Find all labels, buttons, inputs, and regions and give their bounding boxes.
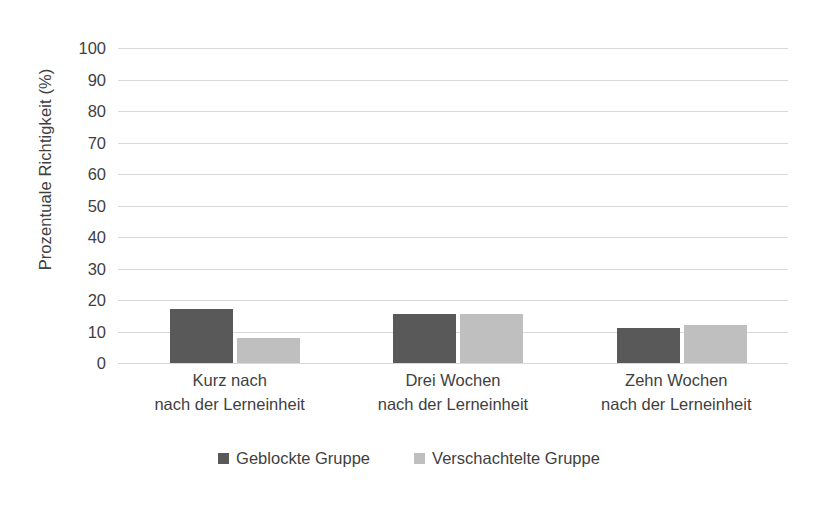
x-axis-category-label-line: Zehn Wochen bbox=[565, 369, 788, 393]
bar bbox=[393, 314, 456, 363]
bar-group bbox=[341, 48, 564, 363]
bar bbox=[237, 338, 300, 363]
legend-swatch-icon bbox=[218, 453, 229, 464]
x-axis-category-label-line: nach der Lerneinheit bbox=[118, 393, 341, 417]
legend-item-label: Geblockte Gruppe bbox=[236, 449, 370, 468]
plot-area bbox=[118, 48, 788, 363]
bar-chart: Prozentuale Richtigkeit (%) 010203040506… bbox=[0, 0, 818, 507]
axis-baseline bbox=[118, 363, 788, 364]
x-axis-category-label: Zehn Wochennach der Lerneinheit bbox=[565, 369, 788, 417]
chart-legend: Geblockte GruppeVerschachtelte Gruppe bbox=[0, 449, 818, 468]
legend-item[interactable]: Geblockte Gruppe bbox=[218, 449, 370, 468]
bar-groups bbox=[118, 48, 788, 363]
legend-item[interactable]: Verschachtelte Gruppe bbox=[414, 449, 600, 468]
y-axis-tick-label: 100 bbox=[52, 40, 106, 57]
y-axis-tick-label: 10 bbox=[52, 323, 106, 340]
y-axis-tick-label: 80 bbox=[52, 103, 106, 120]
bar bbox=[684, 325, 747, 363]
x-axis-category-labels: Kurz nachnach der LerneinheitDrei Wochen… bbox=[118, 369, 788, 417]
x-axis-category-label-line: Drei Wochen bbox=[341, 369, 564, 393]
x-axis-category-label-line: Kurz nach bbox=[118, 369, 341, 393]
y-axis-tick-label: 50 bbox=[52, 197, 106, 214]
legend-swatch-icon bbox=[414, 453, 425, 464]
y-axis-tick-labels: 0102030405060708090100 bbox=[52, 48, 106, 363]
bar-group bbox=[118, 48, 341, 363]
y-axis-tick-label: 0 bbox=[52, 355, 106, 372]
y-axis-tick-label: 70 bbox=[52, 134, 106, 151]
y-axis-tick-label: 90 bbox=[52, 71, 106, 88]
bar-group bbox=[565, 48, 788, 363]
bar bbox=[460, 314, 523, 363]
legend-item-label: Verschachtelte Gruppe bbox=[432, 449, 600, 468]
bar bbox=[170, 309, 233, 363]
y-axis-tick-label: 20 bbox=[52, 292, 106, 309]
y-axis-tick-label: 30 bbox=[52, 260, 106, 277]
y-axis-tick-label: 60 bbox=[52, 166, 106, 183]
x-axis-category-label-line: nach der Lerneinheit bbox=[565, 393, 788, 417]
y-axis-tick-label: 40 bbox=[52, 229, 106, 246]
x-axis-category-label: Kurz nachnach der Lerneinheit bbox=[118, 369, 341, 417]
x-axis-category-label-line: nach der Lerneinheit bbox=[341, 393, 564, 417]
x-axis-category-label: Drei Wochennach der Lerneinheit bbox=[341, 369, 564, 417]
bar bbox=[617, 328, 680, 363]
